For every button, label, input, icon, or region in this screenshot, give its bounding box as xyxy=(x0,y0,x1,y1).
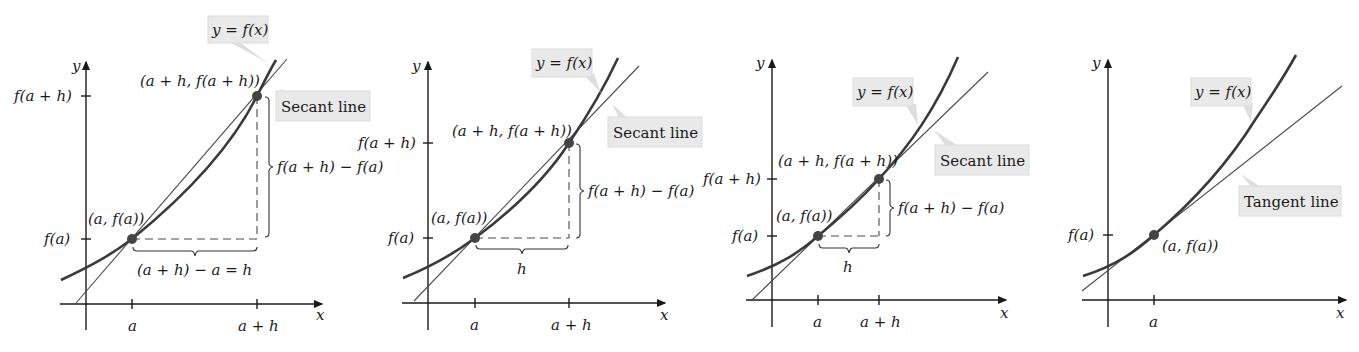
point-a-plus-h-label: (a + h, f(a + h)) xyxy=(452,122,572,140)
run-label: h xyxy=(843,258,853,276)
panel-3: y x a a + h f(a + h) f(a) h f(a + h) − f… xyxy=(702,54,1029,331)
x-tick-label-a: a xyxy=(128,317,137,335)
x-axis-label: x xyxy=(1000,304,1009,322)
point-a-plus-h xyxy=(252,91,262,101)
run-label: h xyxy=(517,260,527,278)
point-a xyxy=(127,234,137,244)
rise-label: f(a + h) − f(a) xyxy=(587,182,694,200)
x-tick-label-a-plus-h: a + h xyxy=(238,317,279,335)
line-callout-text: Secant line xyxy=(940,152,1025,170)
curve-callout-text: y = f(x) xyxy=(856,83,913,101)
secant-to-tangent-figure: y x a a + h f(a + h) f(a) (a + h) − a = … xyxy=(0,0,1359,352)
run-brace xyxy=(819,244,879,253)
point-a-plus-h-label: (a + h, f(a + h)) xyxy=(140,72,260,90)
x-tick-label-a: a xyxy=(1149,313,1158,331)
y-axis-label: y xyxy=(71,57,81,75)
y-tick-label-fa: f(a) xyxy=(387,229,414,247)
x-axis-label: x xyxy=(660,306,669,324)
panel-2: y x a a + h f(a + h) f(a) h f(a + h) − f… xyxy=(357,49,702,334)
point-a xyxy=(813,231,823,241)
y-tick-label-fa: f(a) xyxy=(43,230,70,248)
curve-callout-text: y = f(x) xyxy=(211,21,268,39)
rise-brace xyxy=(886,180,894,236)
y-tick-label-fah: f(a + h) xyxy=(13,87,72,105)
run-brace xyxy=(133,247,257,256)
y-axis-label: y xyxy=(1091,54,1101,72)
rise-brace xyxy=(265,97,273,237)
rise-label: f(a + h) − f(a) xyxy=(276,158,383,176)
point-a-label: (a, f(a)) xyxy=(431,209,488,227)
y-tick-label-fa: f(a) xyxy=(1067,226,1094,244)
function-curve xyxy=(61,60,276,280)
y-tick-label-fa: f(a) xyxy=(731,227,758,245)
panel-4: y x a f(a) (a, f(a)) y = f(x) Tangent li… xyxy=(1067,54,1346,331)
rise-label: f(a + h) − f(a) xyxy=(897,199,1004,217)
x-tick-label-a-plus-h: a + h xyxy=(860,313,901,331)
point-a-label: (a, f(a)) xyxy=(88,210,145,228)
point-a-plus-h-label: (a + h, f(a + h)) xyxy=(778,152,898,170)
point-a-plus-h xyxy=(874,174,884,184)
rise-brace xyxy=(576,144,584,238)
curve-callout-pointer xyxy=(905,104,918,125)
x-axis-label: x xyxy=(1336,304,1345,322)
line-callout-text: Secant line xyxy=(613,124,698,142)
line-callout-pointer xyxy=(934,130,958,146)
x-tick-label-a: a xyxy=(813,313,822,331)
x-tick-label-a-plus-h: a + h xyxy=(551,316,592,334)
panel-1: y x a a + h f(a + h) f(a) (a + h) − a = … xyxy=(13,16,383,335)
x-tick-label-a: a xyxy=(470,316,479,334)
y-axis-label: y xyxy=(755,54,765,72)
line-callout-text: Tangent line xyxy=(1244,193,1339,211)
point-a-label: (a, f(a)) xyxy=(1162,237,1219,255)
run-brace xyxy=(476,245,568,254)
line-callout-text: Secant line xyxy=(281,98,366,116)
point-a-label: (a, f(a)) xyxy=(776,207,833,225)
point-a xyxy=(1149,230,1159,240)
curve-callout-text: y = f(x) xyxy=(1194,83,1251,101)
function-curve xyxy=(403,58,618,278)
curve-callout-text: y = f(x) xyxy=(535,54,592,72)
x-axis-label: x xyxy=(316,306,325,324)
run-label: (a + h) − a = h xyxy=(137,261,252,279)
y-axis-label: y xyxy=(411,57,421,75)
y-tick-label-fah: f(a + h) xyxy=(357,134,416,152)
point-a xyxy=(470,233,480,243)
y-tick-label-fah: f(a + h) xyxy=(702,170,761,188)
